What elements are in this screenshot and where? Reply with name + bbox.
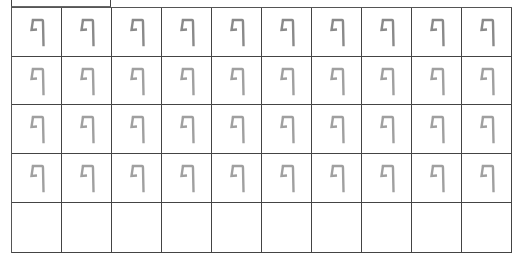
blank-practice-cell [262, 203, 312, 253]
hebrew-final-pe-glyph [378, 162, 396, 194]
trace-cell [212, 57, 262, 105]
hebrew-final-pe-glyph [178, 113, 196, 145]
trace-cell [262, 154, 312, 203]
trace-cell [312, 154, 362, 203]
blank-practice-cell [62, 203, 112, 253]
hebrew-final-pe-glyph [28, 65, 46, 97]
hebrew-final-pe-glyph [378, 16, 396, 48]
trace-cell [162, 8, 212, 57]
hebrew-final-pe-glyph [178, 162, 196, 194]
trace-cell [212, 105, 262, 154]
trace-cell [62, 8, 112, 57]
hebrew-final-pe-glyph [228, 113, 246, 145]
hebrew-final-pe-glyph [228, 16, 246, 48]
trace-cell [462, 105, 512, 154]
hebrew-final-pe-glyph [478, 113, 496, 145]
trace-cell [62, 57, 112, 105]
trace-cell [162, 154, 212, 203]
trace-cell [262, 105, 312, 154]
hebrew-final-pe-glyph [428, 16, 446, 48]
hebrew-final-pe-glyph [128, 16, 146, 48]
trace-cell [212, 154, 262, 203]
trace-cell [362, 8, 412, 57]
trace-cell [112, 8, 162, 57]
blank-practice-cell [162, 203, 212, 253]
hebrew-final-pe-glyph [128, 113, 146, 145]
trace-cell [412, 57, 462, 105]
hebrew-final-pe-glyph [178, 16, 196, 48]
trace-cell [112, 105, 162, 154]
hebrew-final-pe-glyph [278, 162, 296, 194]
trace-cell [162, 57, 212, 105]
blank-practice-cell [412, 203, 462, 253]
hebrew-final-pe-glyph [28, 162, 46, 194]
hebrew-final-pe-glyph [228, 65, 246, 97]
trace-cell [462, 154, 512, 203]
hebrew-final-pe-glyph [278, 113, 296, 145]
hebrew-final-pe-glyph [278, 65, 296, 97]
hebrew-final-pe-glyph [78, 16, 96, 48]
trace-cell [312, 105, 362, 154]
trace-cell [462, 8, 512, 57]
header-tab-cell [11, 0, 111, 7]
trace-cell [112, 154, 162, 203]
hebrew-final-pe-glyph [28, 113, 46, 145]
trace-cell [12, 57, 62, 105]
hebrew-final-pe-glyph [428, 65, 446, 97]
hebrew-final-pe-glyph [328, 65, 346, 97]
blank-practice-cell [312, 203, 362, 253]
trace-cell [12, 154, 62, 203]
trace-cell [112, 57, 162, 105]
trace-cell [12, 8, 62, 57]
blank-practice-cell [462, 203, 512, 253]
trace-cell [362, 57, 412, 105]
blank-practice-cell [12, 203, 62, 253]
hebrew-final-pe-glyph [478, 162, 496, 194]
hebrew-final-pe-glyph [378, 65, 396, 97]
trace-cell [462, 57, 512, 105]
trace-cell [412, 105, 462, 154]
hebrew-final-pe-glyph [78, 162, 96, 194]
trace-cell [162, 105, 212, 154]
hebrew-final-pe-glyph [328, 113, 346, 145]
practice-grid [11, 7, 512, 253]
hebrew-final-pe-glyph [78, 113, 96, 145]
trace-cell [312, 8, 362, 57]
hebrew-final-pe-glyph [178, 65, 196, 97]
trace-cell [62, 154, 112, 203]
trace-cell [62, 105, 112, 154]
trace-cell [262, 8, 312, 57]
trace-cell [212, 8, 262, 57]
trace-cell [412, 8, 462, 57]
trace-cell [12, 105, 62, 154]
hebrew-final-pe-glyph [128, 162, 146, 194]
hebrew-final-pe-glyph [128, 65, 146, 97]
trace-cell [412, 154, 462, 203]
hebrew-final-pe-glyph [478, 16, 496, 48]
hebrew-final-pe-glyph [428, 162, 446, 194]
trace-cell [312, 57, 362, 105]
hebrew-final-pe-glyph [428, 113, 446, 145]
blank-practice-cell [212, 203, 262, 253]
trace-cell [262, 57, 312, 105]
blank-practice-cell [112, 203, 162, 253]
hebrew-final-pe-glyph [228, 162, 246, 194]
trace-cell [362, 105, 412, 154]
blank-practice-cell [362, 203, 412, 253]
hebrew-final-pe-glyph [278, 16, 296, 48]
hebrew-final-pe-glyph [378, 113, 396, 145]
hebrew-final-pe-glyph [328, 162, 346, 194]
hebrew-final-pe-glyph [328, 16, 346, 48]
trace-cell [362, 154, 412, 203]
hebrew-final-pe-glyph [478, 65, 496, 97]
hebrew-final-pe-glyph [78, 65, 96, 97]
hebrew-final-pe-glyph [28, 16, 46, 48]
